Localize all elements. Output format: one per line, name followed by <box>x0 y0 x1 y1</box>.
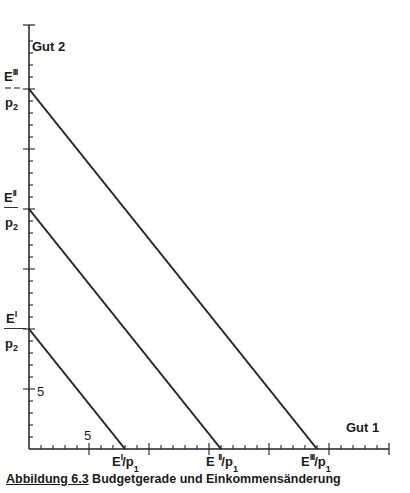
budget-line-3 <box>29 89 317 449</box>
y-axis-label: Gut 2 <box>32 40 65 53</box>
figure-title: Budgetgerade und Einkommensänderung <box>89 472 341 486</box>
figure-caption: Abbildung 6.3 Budgetgerade und Einkommen… <box>6 472 341 486</box>
y-intercept-fraction-bar-e1 <box>4 328 26 329</box>
budget-lines <box>29 89 317 449</box>
y-intercept-label-e2: EII <box>4 191 16 204</box>
y-intercept-label-e3: EIII <box>4 70 17 83</box>
y-intercept-denominator-e2: p2 <box>5 216 18 229</box>
x-intercept-label-e2: E II/p1 <box>206 455 238 468</box>
x-axis-label: Gut 1 <box>346 421 379 434</box>
y-tick-label-5: 5 <box>37 384 44 399</box>
y-intercept-denominator-e1: p2 <box>5 337 18 350</box>
y-intercept-fraction-bar-e2 <box>4 207 18 208</box>
y-intercept-denominator-e3: p2 <box>5 96 18 109</box>
x-intercept-label-e1: EI/p1 <box>112 455 139 468</box>
figure-number: Abbildung 6.3 <box>6 472 89 486</box>
x-tick-label-5: 5 <box>84 428 91 443</box>
budget-line-2 <box>29 209 221 449</box>
y-intercept-label-e1: EI <box>6 312 16 325</box>
x-intercept-label-e3: EIII/p1 <box>301 455 331 468</box>
